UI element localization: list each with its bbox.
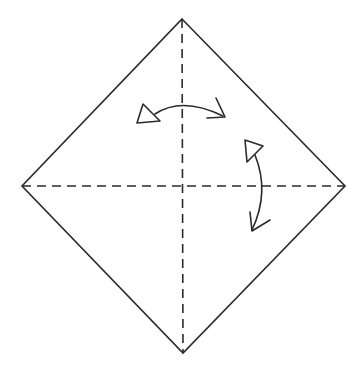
hollow-arrowhead-icon — [245, 140, 263, 162]
arrow-arc — [252, 155, 262, 230]
vertical-crease — [182, 19, 183, 353]
fold-diagram — [0, 0, 363, 365]
arrow-arc — [155, 105, 223, 116]
horizontal-fold-unfold-arrow — [137, 98, 225, 123]
fold-diagram-canvas — [0, 0, 363, 365]
